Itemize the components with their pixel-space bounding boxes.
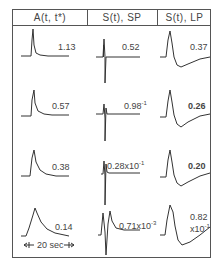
amp-lp-2: 0.26 xyxy=(188,101,206,111)
amp-lp-4-exp: x10-1 xyxy=(190,224,210,234)
amp-sp-1: 0.52 xyxy=(122,42,140,52)
amp-lp-1: 0.37 xyxy=(190,42,208,52)
scale-bar-label: 20 sec xyxy=(37,240,64,250)
amp-sp-3: 0.28x10-1 xyxy=(107,161,144,171)
amp-lp-3: 0.20 xyxy=(188,161,206,171)
amp-lp-4: 0.82 xyxy=(190,212,208,222)
amp-a-1: 1.13 xyxy=(58,42,76,52)
amp-a-3: 0.38 xyxy=(52,162,70,172)
amp-sp-4: 0.71x10-3 xyxy=(119,221,156,231)
amp-sp-2: 0.98-1 xyxy=(124,101,147,111)
amp-a-2: 0.57 xyxy=(52,101,70,111)
waveform-sp-4 xyxy=(98,211,140,255)
amp-a-4: 0.14 xyxy=(55,222,73,232)
